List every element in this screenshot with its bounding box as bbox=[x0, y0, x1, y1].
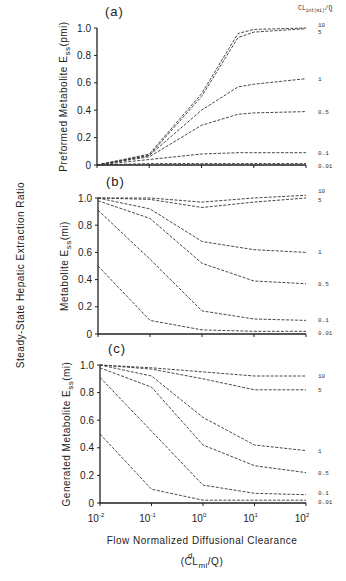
svg-text:101: 101 bbox=[243, 512, 258, 524]
y-tick-label: 0.6 bbox=[77, 77, 91, 88]
svg-text:10-1: 10-1 bbox=[139, 512, 156, 524]
panel-y-axis-title: Generated Metabolite Ess(mi) bbox=[61, 362, 75, 507]
y-tick-label: 0.8 bbox=[78, 220, 92, 231]
series-label: 0.1 bbox=[318, 150, 329, 157]
svg-text:10-2: 10-2 bbox=[88, 512, 105, 524]
series-label: 0.01 bbox=[318, 330, 333, 337]
axis-lines bbox=[98, 198, 306, 334]
series-label: 10 bbox=[318, 373, 326, 380]
y-tick-label: 0.8 bbox=[77, 50, 91, 61]
panel-y-axis-title: Preformed Metabolite Ess(pmi) bbox=[58, 21, 72, 171]
series-label: 5 bbox=[318, 197, 322, 204]
series-line-1 bbox=[100, 365, 306, 451]
panel-label: (c) bbox=[108, 341, 126, 356]
series-line-0.5 bbox=[98, 201, 306, 284]
series-label: 0.5 bbox=[318, 470, 329, 477]
y-tick-label: 0.8 bbox=[80, 387, 94, 398]
shared-y-axis-title: Steady-State Hepatic Extraction Ratio bbox=[15, 182, 26, 368]
y-tick-label: 0 bbox=[88, 498, 94, 509]
y-tick-label: 1.0 bbox=[80, 360, 94, 371]
axis-lines bbox=[100, 365, 306, 503]
series-line-1 bbox=[97, 79, 306, 165]
series-line-0.01 bbox=[100, 434, 306, 500]
series-line-5 bbox=[98, 198, 306, 208]
panel-a: 00.20.40.60.81.0(a)Preformed Metabolite … bbox=[58, 4, 333, 172]
series-label: 5 bbox=[318, 29, 322, 36]
y-tick-label: 0.2 bbox=[77, 132, 91, 143]
series-label: 0.1 bbox=[318, 490, 329, 497]
panel-label: (b) bbox=[106, 174, 125, 189]
svg-text:102: 102 bbox=[295, 512, 310, 524]
series-line-0.1 bbox=[100, 377, 306, 494]
y-tick-label: 1.0 bbox=[77, 23, 91, 34]
series-line-1 bbox=[98, 198, 306, 252]
panel-label: (a) bbox=[105, 4, 124, 19]
y-tick-label: 0.4 bbox=[80, 442, 94, 453]
series-label: 0.5 bbox=[318, 109, 329, 116]
y-tick-label: 0 bbox=[86, 329, 92, 340]
series-label: 0.01 bbox=[318, 499, 333, 506]
y-tick-label: 0 bbox=[85, 160, 91, 171]
panel-y-axis-title: Metabolite Ess(mi) bbox=[59, 221, 73, 311]
x-axis-title: Flow Normalized Diffusional Clearance bbox=[107, 535, 298, 546]
y-tick-label: 0.6 bbox=[78, 247, 92, 258]
series-line-0.1 bbox=[98, 210, 306, 320]
series-label: 1 bbox=[318, 76, 322, 83]
figure-canvas: Steady-State Hepatic Extraction Ratio CL… bbox=[0, 0, 346, 581]
panel-b: 00.20.40.60.81.0(b)Metabolite Ess(mi)105… bbox=[59, 174, 333, 340]
y-tick-label: 0.2 bbox=[80, 470, 94, 481]
svg-text:100: 100 bbox=[192, 512, 207, 524]
legend-title: CLint(mi)/Q bbox=[298, 5, 333, 13]
series-label: 0.01 bbox=[318, 163, 333, 170]
panel-c: 00.20.40.60.81.0(c)Generated Metabolite … bbox=[61, 341, 333, 509]
series-line-0.5 bbox=[97, 112, 306, 165]
series-line-10 bbox=[100, 365, 306, 376]
series-label: 0.5 bbox=[318, 281, 329, 288]
y-tick-label: 0.2 bbox=[78, 301, 92, 312]
y-tick-label: 0.4 bbox=[77, 105, 91, 116]
y-tick-label: 1.0 bbox=[78, 193, 92, 204]
series-line-5 bbox=[100, 365, 306, 390]
y-tick-label: 0.4 bbox=[78, 274, 92, 285]
series-label: 1 bbox=[318, 448, 322, 455]
series-label: 1 bbox=[318, 249, 322, 256]
series-label: 0.1 bbox=[318, 317, 329, 324]
y-tick-label: 0.6 bbox=[80, 415, 94, 426]
x-tick-labels: 10-210-1100101102 bbox=[88, 512, 310, 524]
series-label: 5 bbox=[318, 387, 322, 394]
series-line-0.5 bbox=[100, 368, 306, 473]
series-label: 10 bbox=[318, 188, 326, 195]
series-line-0.01 bbox=[98, 266, 306, 331]
series-line-10 bbox=[98, 195, 306, 202]
series-line-5 bbox=[97, 29, 306, 165]
x-axis-superscript: d bbox=[188, 551, 192, 560]
